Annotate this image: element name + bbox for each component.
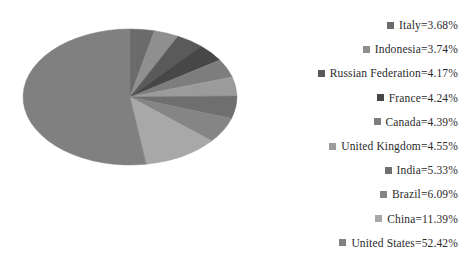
legend-item[interactable]: United States=52.42% xyxy=(339,231,470,255)
legend-swatch-icon xyxy=(380,191,387,198)
pie-chart-figure: Italy=3.68%Indonesia=3.74%Russian Federa… xyxy=(0,0,470,258)
legend-item-label: Indonesia=3.74% xyxy=(375,43,458,55)
legend-swatch-icon xyxy=(377,94,384,101)
legend-item-label: Brazil=6.09% xyxy=(392,188,458,200)
legend-item[interactable]: China=11.39% xyxy=(375,207,470,231)
legend-item-label: United States=52.42% xyxy=(351,237,458,249)
pie-svg xyxy=(0,0,248,258)
legend-item-label: India=5.33% xyxy=(397,164,458,176)
legend-swatch-icon xyxy=(374,118,381,125)
legend-item[interactable]: Brazil=6.09% xyxy=(380,182,470,206)
legend-swatch-icon xyxy=(387,22,394,29)
legend-swatch-icon xyxy=(385,167,392,174)
chart-legend: Italy=3.68%Indonesia=3.74%Russian Federa… xyxy=(248,0,470,258)
legend-item[interactable]: Italy=3.68% xyxy=(387,13,470,37)
legend-item[interactable]: United Kingdom=4.55% xyxy=(329,134,470,158)
legend-swatch-icon xyxy=(363,46,370,53)
legend-item-label: China=11.39% xyxy=(387,213,458,225)
legend-item[interactable]: France=4.24% xyxy=(377,86,470,110)
legend-swatch-icon xyxy=(318,70,325,77)
legend-item[interactable]: Russian Federation=4.17% xyxy=(318,61,470,85)
legend-swatch-icon xyxy=(339,239,346,246)
pie-slice[interactable] xyxy=(23,29,146,165)
legend-item[interactable]: Indonesia=3.74% xyxy=(363,37,470,61)
legend-swatch-icon xyxy=(329,143,336,150)
legend-item[interactable]: India=5.33% xyxy=(385,158,470,182)
legend-item-label: Canada=4.39% xyxy=(386,116,458,128)
legend-item-label: Italy=3.68% xyxy=(399,19,458,31)
legend-item-label: France=4.24% xyxy=(389,92,458,104)
legend-item[interactable]: Canada=4.39% xyxy=(374,110,470,134)
pie-plot-area xyxy=(0,0,248,258)
legend-item-label: Russian Federation=4.17% xyxy=(330,67,458,79)
legend-item-label: United Kingdom=4.55% xyxy=(341,140,458,152)
legend-swatch-icon xyxy=(375,215,382,222)
